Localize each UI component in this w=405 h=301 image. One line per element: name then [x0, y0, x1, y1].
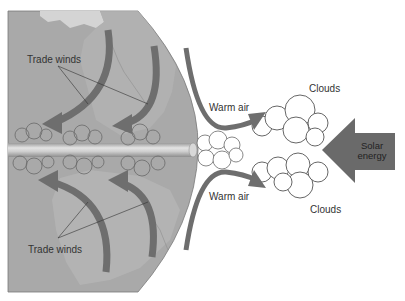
- equator-band: [8, 143, 197, 157]
- warm-air-arrow-bottom: [186, 172, 256, 250]
- center-cloud: [197, 131, 243, 169]
- label-solar-line2: energy: [347, 151, 397, 161]
- diagram-canvas: [0, 0, 405, 301]
- label-clouds-top: Clouds: [309, 84, 340, 94]
- label-trade-winds-top: Trade winds: [27, 55, 81, 65]
- label-solar-energy: Solar energy: [347, 141, 397, 162]
- warm-air-arrow-top: [186, 48, 256, 128]
- cloud-upper-right: [252, 95, 328, 146]
- label-warm-air-top: Warm air: [209, 103, 249, 113]
- label-clouds-bottom: Clouds: [310, 205, 341, 215]
- label-trade-winds-bottom: Trade winds: [28, 245, 82, 255]
- cloud-lower-right: [252, 153, 328, 198]
- label-warm-air-bottom: Warm air: [209, 192, 249, 202]
